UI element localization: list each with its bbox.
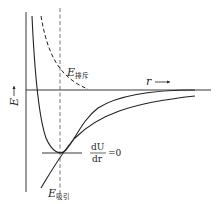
repulsion-label: E 排斥 — [66, 66, 89, 80]
attraction-curve — [41, 96, 195, 188]
svg-text:=0: =0 — [108, 148, 122, 158]
svg-text:E: E — [8, 98, 21, 107]
svg-text:r: r — [146, 75, 152, 88]
svg-text:E: E — [66, 66, 75, 79]
svg-text:dr: dr — [92, 154, 103, 164]
total-potential-curve — [32, 16, 195, 153]
x-axis-label: r — [146, 75, 170, 88]
svg-text:E: E — [47, 187, 56, 200]
attraction-label: E 吸引 — [47, 187, 70, 201]
svg-text:排斥: 排斥 — [75, 71, 89, 80]
potential-energy-diagram: E r E 排斥 dU dr =0 E 吸引 — [0, 0, 221, 204]
y-axis-label: E — [8, 86, 21, 107]
derivative-label: dU dr =0 — [90, 142, 122, 164]
svg-text:吸引: 吸引 — [56, 192, 70, 201]
svg-text:dU: dU — [91, 142, 105, 152]
